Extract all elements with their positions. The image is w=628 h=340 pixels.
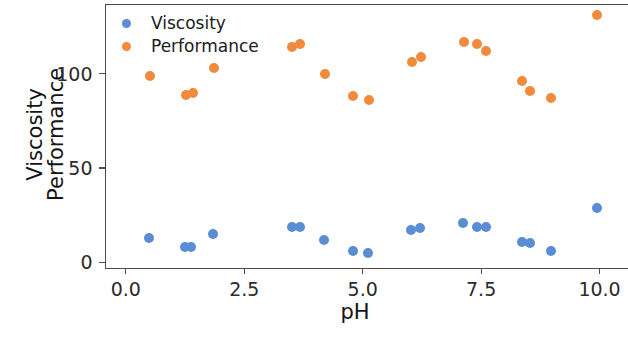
- legend-label: Performance: [151, 36, 259, 56]
- x-tick-label: 7.5: [466, 278, 496, 300]
- x-tick-mark: [599, 268, 600, 274]
- data-point-performance: [209, 63, 219, 73]
- legend-item-viscosity: Viscosity: [122, 13, 226, 33]
- data-point-performance: [525, 86, 535, 96]
- data-point-viscosity: [186, 242, 196, 252]
- data-point-viscosity: [144, 233, 154, 243]
- data-point-performance: [348, 91, 358, 101]
- data-point-performance: [295, 39, 305, 49]
- legend-item-performance: Performance: [122, 36, 259, 56]
- data-point-viscosity: [546, 246, 556, 256]
- data-point-performance: [364, 95, 374, 105]
- y-tick-mark: [99, 73, 105, 74]
- x-tick-label: 0.0: [111, 278, 141, 300]
- x-tick-label: 10.0: [578, 278, 620, 300]
- y-axis-label-line2: Performance: [47, 67, 68, 200]
- x-tick-mark: [244, 268, 245, 274]
- data-point-viscosity: [348, 246, 358, 256]
- y-tick-label: 0: [0, 251, 93, 273]
- y-axis-label: Performance Viscosity: [0, 0, 100, 268]
- y-tick-mark: [99, 167, 105, 168]
- data-point-viscosity: [363, 248, 373, 258]
- data-point-performance: [145, 71, 155, 81]
- legend-marker-icon: [122, 42, 131, 51]
- data-point-performance: [546, 93, 556, 103]
- bottom-spine: [105, 268, 628, 269]
- data-point-performance: [188, 88, 198, 98]
- data-point-viscosity: [525, 238, 535, 248]
- data-point-performance: [416, 52, 426, 62]
- data-point-performance: [320, 69, 330, 79]
- data-point-viscosity: [208, 229, 218, 239]
- data-point-viscosity: [319, 235, 329, 245]
- data-point-viscosity: [481, 222, 491, 232]
- data-point-viscosity: [592, 203, 602, 213]
- y-tick-mark: [99, 262, 105, 263]
- data-point-performance: [472, 39, 482, 49]
- x-tick-label: 5.0: [348, 278, 378, 300]
- y-tick-label: 50: [0, 157, 93, 179]
- data-point-performance: [481, 46, 491, 56]
- data-point-performance: [459, 37, 469, 47]
- top-spine: [105, 4, 628, 5]
- x-tick-mark: [125, 268, 126, 274]
- data-point-performance: [592, 10, 602, 20]
- data-point-viscosity: [415, 223, 425, 233]
- legend-label: Viscosity: [151, 13, 226, 33]
- x-tick-label: 2.5: [229, 278, 259, 300]
- data-point-viscosity: [406, 225, 416, 235]
- y-tick-label: 100: [0, 63, 93, 85]
- data-point-performance: [407, 57, 417, 67]
- x-tick-mark: [362, 268, 363, 274]
- data-point-viscosity: [295, 222, 305, 232]
- data-point-performance: [517, 76, 527, 86]
- left-spine: [105, 4, 106, 268]
- scatter-plot-figure: Performance Viscosity pH 0.02.55.07.510.…: [0, 0, 628, 340]
- legend-marker-icon: [122, 19, 131, 28]
- data-point-viscosity: [458, 218, 468, 228]
- x-axis-label: pH: [104, 300, 606, 324]
- x-tick-mark: [481, 268, 482, 274]
